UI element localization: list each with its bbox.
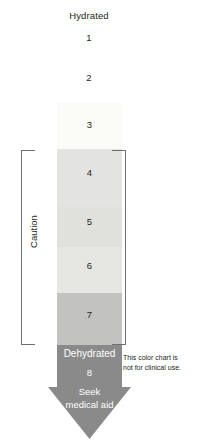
urine-hydration-color-chart: Hydrated 1 2 3 4 5 6 7 Caution Dehydrate… bbox=[0, 0, 202, 441]
caution-zone-label: Caution bbox=[28, 202, 39, 262]
seek-advice-line-1: Seek bbox=[57, 386, 122, 398]
caution-bracket-stub-top-right bbox=[112, 150, 126, 151]
caution-bracket-stub-top-left bbox=[21, 150, 35, 151]
dehydrated-arrow: Dehydrated 8 Seek medical aid bbox=[24, 345, 131, 439]
caution-bracket: Caution bbox=[21, 150, 126, 345]
disclaimer-line-2: not for clinical use. bbox=[123, 363, 201, 373]
scale-step-1-number: 1 bbox=[56, 32, 122, 43]
hydrated-zone-label: Hydrated bbox=[56, 10, 122, 21]
dehydrated-zone-label: Dehydrated bbox=[57, 348, 122, 360]
scale-step-8-number: 8 bbox=[57, 367, 122, 379]
disclaimer-note: This color chart is not for clinical use… bbox=[123, 353, 201, 372]
scale-step-3-number: 3 bbox=[57, 119, 122, 130]
disclaimer-line-1: This color chart is bbox=[123, 353, 201, 363]
seek-advice-line-2: medical aid bbox=[57, 399, 122, 411]
scale-step-2-number: 2 bbox=[56, 72, 122, 83]
